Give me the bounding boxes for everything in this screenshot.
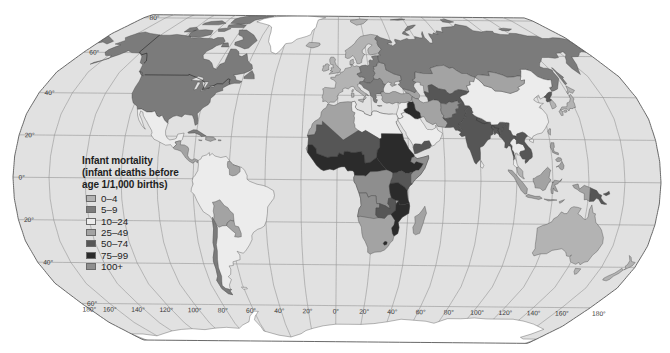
longitude-label: 80° xyxy=(444,309,454,316)
longitude-label: 140° xyxy=(131,306,145,313)
longitude-label: 20° xyxy=(359,308,369,315)
legend-item-50-74: 50–74 xyxy=(86,238,212,249)
longitude-label: 180° xyxy=(592,310,606,317)
longitude-label: 180° xyxy=(83,305,97,312)
legend-item-0-4: 0–4 xyxy=(86,193,212,204)
legend-title-line-3: age 1/1,000 births) xyxy=(82,179,212,191)
legend-item-75-99: 75–99 xyxy=(86,249,212,260)
legend-swatch xyxy=(86,252,96,259)
longitude-label: 140° xyxy=(527,309,541,316)
longitude-label: 60° xyxy=(246,307,256,314)
latitude-label: 80° xyxy=(149,14,159,21)
longitude-label: 100° xyxy=(188,306,202,313)
latitude-label: 40° xyxy=(43,259,53,266)
legend: Infant mortality (infant deaths before a… xyxy=(82,155,212,272)
legend-item-label: 25–49 xyxy=(101,227,128,238)
legend-item-5-9: 5–9 xyxy=(86,204,212,215)
legend-title: Infant mortality (infant deaths before a… xyxy=(82,155,212,191)
infant-mortality-map-figure: 80°60°40°20°0°20°40°60°180°160°140°120°1… xyxy=(0,0,670,353)
longitude-label: 80° xyxy=(218,307,228,314)
legend-swatch xyxy=(86,229,96,236)
latitude-label: 20° xyxy=(25,131,35,138)
longitude-label: 160° xyxy=(555,310,569,317)
legend-swatch xyxy=(86,263,96,270)
legend-item-label: 10–24 xyxy=(101,216,128,227)
legend-item-10-24: 10–24 xyxy=(86,216,212,227)
legend-item-label: 5–9 xyxy=(101,204,117,215)
legend-item-25-49: 25–49 xyxy=(86,227,212,238)
legend-item-label: 100+ xyxy=(101,261,123,272)
longitude-label: 120° xyxy=(159,306,173,313)
legend-swatch xyxy=(86,240,96,247)
latitude-label: 60° xyxy=(89,49,99,56)
latitude-label: 0° xyxy=(18,174,25,181)
legend-title-line-1: Infant mortality xyxy=(82,155,212,167)
legend-title-line-2: (infant deaths before xyxy=(82,167,212,179)
latitude-label: 20° xyxy=(24,216,34,223)
legend-item-label: 50–74 xyxy=(101,238,128,249)
longitude-label: 60° xyxy=(416,308,426,315)
legend-item-label: 0–4 xyxy=(101,193,117,204)
legend-items: 0–4 5–9 10–24 25–49 50–74 75–99 xyxy=(86,193,212,272)
longitude-label: 160° xyxy=(103,306,117,313)
longitude-label: 100° xyxy=(470,309,484,316)
legend-swatch xyxy=(86,206,96,213)
longitude-label: 40° xyxy=(274,307,284,314)
legend-swatch xyxy=(86,195,96,202)
legend-item-100-plus: 100+ xyxy=(86,261,212,272)
longitude-label: 20° xyxy=(303,307,313,314)
legend-swatch xyxy=(86,218,96,225)
longitude-label: 0° xyxy=(333,308,340,315)
legend-item-label: 75–99 xyxy=(101,250,128,261)
longitude-label: 120° xyxy=(499,309,513,316)
latitude-label: 40° xyxy=(45,89,55,96)
longitude-label: 40° xyxy=(387,308,397,315)
